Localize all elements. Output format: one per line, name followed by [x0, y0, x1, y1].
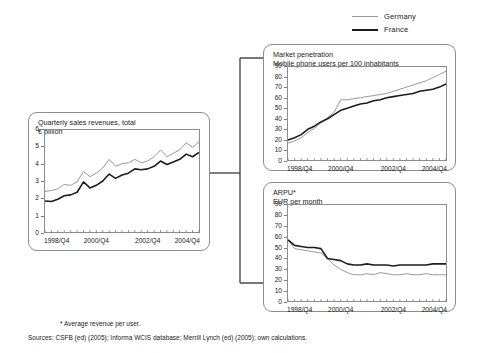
footnote-average-revenue-per-user: * Average revenue per user.	[60, 319, 140, 328]
y-tick-label: 60	[275, 94, 282, 101]
x-tick-label: 1998/Q4	[287, 307, 312, 314]
plot-arpu-y-axis: 0102030405060708090	[257, 204, 287, 302]
series-line-germany	[45, 142, 199, 191]
plot-arpu-canvas	[287, 204, 447, 302]
y-tick-label: 4	[35, 160, 39, 167]
plot-left-canvas	[44, 129, 200, 233]
plot-left-x-axis: 1998/Q42000/Q42002/Q42004/Q4	[44, 233, 200, 247]
legend-item-germany: Germany	[352, 10, 462, 23]
plot-penetration-canvas	[287, 66, 447, 161]
legend-label-germany: Germany	[384, 12, 416, 21]
y-tick-label: 90	[275, 63, 282, 70]
panel-left-title-line1: Quarterly sales revenues, total	[38, 118, 205, 127]
footnote-sources: Sources: CSFB (ed) (2005); Informa WCIS …	[28, 333, 307, 342]
series-line-france	[45, 152, 199, 201]
plot-penetration-x-axis: 1998/Q42000/Q42002/Q42004/Q4	[287, 161, 447, 175]
plot-penetration-y-axis: 0102030405060708090	[257, 66, 287, 161]
y-tick-label: 60	[275, 233, 282, 240]
x-tick-label: 2000/Q4	[328, 307, 353, 314]
y-tick-label: 40	[275, 255, 282, 262]
plot-arpu: 0102030405060708090 1998/Q42000/Q42002/Q…	[287, 204, 447, 302]
y-tick-label: 5	[35, 143, 39, 150]
y-tick-label: 3	[35, 178, 39, 185]
plot-arpu-x-axis: 1998/Q42000/Q42002/Q42004/Q4	[287, 302, 447, 316]
chart-legend: Germany France	[352, 10, 462, 36]
y-tick-label: 70	[275, 84, 282, 91]
y-tick-label: 20	[275, 137, 282, 144]
panel-penetration-title-line1: Market penetration	[273, 50, 451, 59]
y-tick-label: 6	[35, 126, 39, 133]
y-tick-label: 10	[275, 288, 282, 295]
y-tick-label: 2	[35, 195, 39, 202]
y-tick-label: 1	[35, 212, 39, 219]
series-line-france	[288, 240, 446, 266]
y-tick-label: 50	[275, 244, 282, 251]
y-tick-label: 70	[275, 222, 282, 229]
y-tick-label: 90	[275, 201, 282, 208]
series-line-germany	[288, 71, 446, 143]
x-tick-label: 2000/Q4	[84, 238, 109, 245]
y-tick-label: 0	[35, 230, 39, 237]
y-tick-label: 50	[275, 105, 282, 112]
y-tick-label: 80	[275, 212, 282, 219]
x-tick-label: 2002/Q4	[381, 307, 406, 314]
x-tick-label: 2004/Q4	[175, 238, 200, 245]
x-tick-label: 1998/Q4	[44, 238, 69, 245]
y-tick-label: 30	[275, 266, 282, 273]
x-tick-label: 2004/Q4	[422, 307, 447, 314]
y-tick-label: 40	[275, 115, 282, 122]
y-tick-label: 0	[278, 299, 282, 306]
y-tick-label: 80	[275, 73, 282, 80]
legend-item-france: France	[352, 23, 462, 36]
legend-swatch-france	[352, 29, 378, 31]
figure-root: Germany France Quarterly sales revenues,…	[0, 0, 478, 353]
plot-quarterly-sales-revenues: 0123456 1998/Q42000/Q42002/Q42004/Q4	[44, 129, 200, 233]
panel-arpu-title-line1: ARPU*	[273, 188, 451, 197]
legend-label-france: France	[384, 25, 408, 34]
legend-swatch-germany	[352, 16, 378, 17]
y-tick-label: 10	[275, 147, 282, 154]
x-tick-label: 1998/Q4	[287, 166, 312, 173]
x-tick-label: 2004/Q4	[422, 166, 447, 173]
y-tick-label: 30	[275, 126, 282, 133]
x-tick-label: 2002/Q4	[381, 166, 406, 173]
plot-market-penetration: 0102030405060708090 1998/Q42000/Q42002/Q…	[287, 66, 447, 161]
x-tick-label: 2002/Q4	[135, 238, 160, 245]
y-tick-label: 20	[275, 277, 282, 284]
series-line-france	[288, 84, 446, 140]
plot-left-y-axis: 0123456	[14, 129, 44, 233]
x-tick-label: 2000/Q4	[328, 166, 353, 173]
series-line-germany	[288, 240, 446, 275]
y-tick-label: 0	[278, 158, 282, 165]
